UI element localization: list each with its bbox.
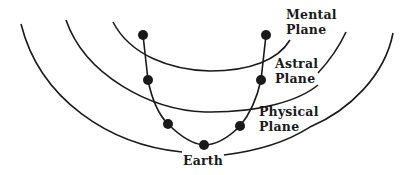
node-physical-left (163, 119, 173, 129)
node-astral-left (143, 75, 153, 85)
mental-plane-label-line2: Plane (286, 22, 337, 37)
node-physical-right (235, 121, 245, 131)
diagram-canvas (0, 0, 411, 175)
mental-plane-label-line1: Mental (286, 7, 337, 22)
physical-plane-label: Physical Plane (259, 104, 319, 134)
mental-plane-label: Mental Plane (286, 7, 337, 37)
physical-plane-label-line1: Physical (259, 104, 319, 119)
physical-plane-label-line2: Plane (259, 119, 319, 134)
physical-plane-arc-far-right (310, 33, 393, 127)
node-earth (199, 140, 209, 150)
planes-diagram: Mental Plane Astral Plane Physical Plane… (0, 0, 411, 175)
astral-plane-label-line2: Plane (275, 71, 318, 86)
physical-plane-arc-left (21, 24, 182, 152)
soul-path-line (143, 35, 266, 145)
astral-plane-label: Astral Plane (275, 56, 318, 86)
node-mental-right (261, 30, 271, 40)
astral-plane-label-line1: Astral (275, 56, 318, 71)
node-astral-right (256, 75, 266, 85)
node-mental-left (138, 30, 148, 40)
earth-label: Earth (183, 153, 223, 168)
astral-plane-arc-right (318, 32, 346, 73)
